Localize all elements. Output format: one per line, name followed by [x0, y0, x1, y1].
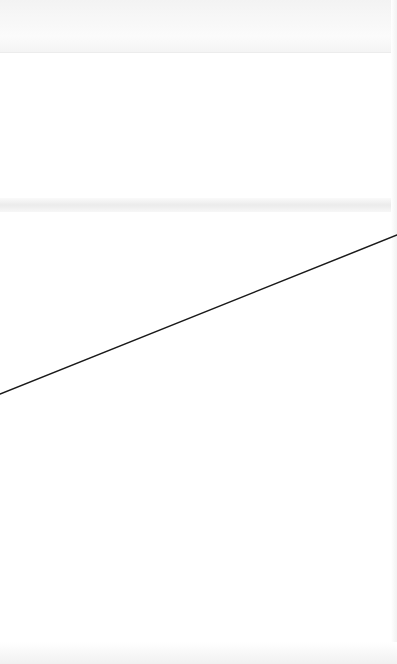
diagonal-line-canvas [0, 0, 397, 664]
diagonal-line [0, 235, 397, 394]
